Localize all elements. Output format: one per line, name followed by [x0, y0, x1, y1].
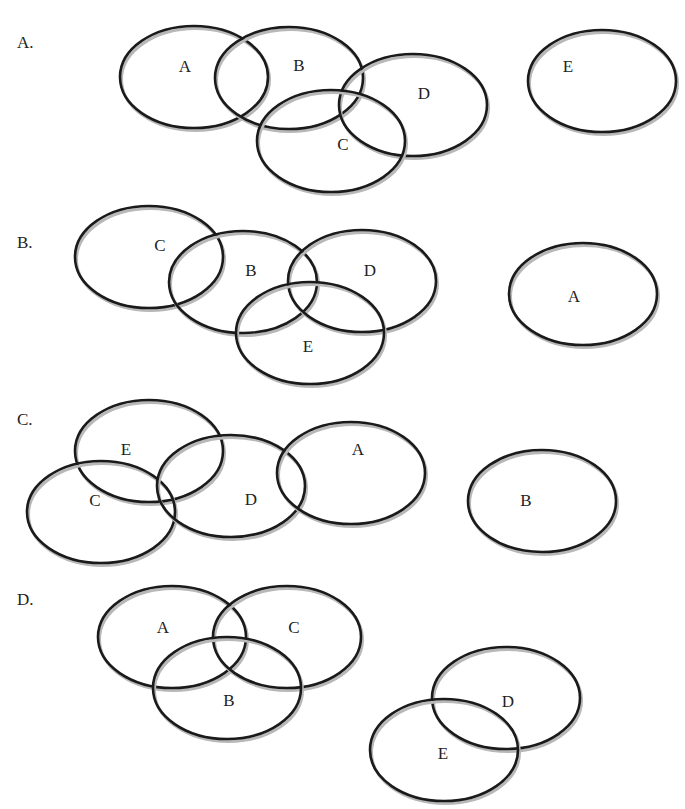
set-label-c: C: [89, 491, 100, 510]
set-ellipse-a: [120, 26, 270, 131]
panel-label: B.: [17, 233, 33, 252]
set-label-a: A: [568, 287, 581, 306]
panel-c: C.ECDAB: [17, 400, 618, 566]
set-ellipse-e: [75, 400, 225, 505]
set-label-e: E: [121, 440, 131, 459]
panel-b: B.CBDEA: [17, 206, 659, 387]
set-ellipse-a: [509, 243, 659, 348]
set-label-a: A: [179, 57, 192, 76]
set-ellipse-a: [277, 422, 427, 527]
set-label-b: B: [245, 261, 256, 280]
set-label-e: E: [438, 744, 448, 763]
set-label-c: C: [288, 618, 299, 637]
set-label-b: B: [223, 691, 234, 710]
set-label-d: D: [502, 692, 514, 711]
panel-a: A.ABDCE: [17, 26, 678, 195]
panel-d: D.ACBDE: [17, 586, 582, 804]
set-label-d: D: [245, 490, 257, 509]
venn-diagram-figure: A.ABDCEB.CBDEAC.ECDABD.ACBDE: [0, 0, 685, 809]
set-ellipse-c: [27, 461, 177, 566]
panel-label: D.: [17, 590, 34, 609]
panel-label: C.: [17, 410, 33, 429]
set-label-b: B: [520, 491, 531, 510]
set-label-e: E: [563, 57, 573, 76]
panel-label: A.: [17, 33, 34, 52]
set-ellipse-e: [528, 30, 678, 135]
set-label-d: D: [364, 261, 376, 280]
set-label-c: C: [337, 135, 348, 154]
set-label-b: B: [293, 56, 304, 75]
set-ellipse-c: [75, 206, 225, 311]
set-label-c: C: [154, 236, 165, 255]
set-ellipse-c: [257, 90, 407, 195]
set-ellipse-d: [339, 54, 489, 159]
set-ellipse-b: [468, 450, 618, 555]
set-label-d: D: [418, 84, 430, 103]
set-label-a: A: [157, 618, 170, 637]
set-label-e: E: [303, 337, 313, 356]
set-label-a: A: [352, 440, 365, 459]
